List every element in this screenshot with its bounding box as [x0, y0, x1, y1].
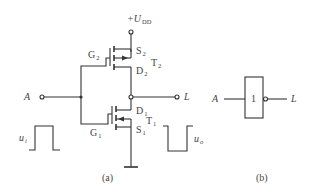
input-a-terminal [40, 95, 44, 99]
g1-wire [81, 97, 112, 124]
t2-gate-label: G2 [88, 49, 99, 61]
figure-b-caption: (b) [256, 172, 268, 184]
output-l-label: L [183, 91, 190, 102]
input-pulse-waveform [29, 126, 60, 150]
input-a-label: A [23, 91, 31, 102]
figure-a-circuit: +UDD S2 D2 T2 G2 [19, 13, 204, 184]
supply-label: +UDD [127, 13, 152, 25]
t1-body-arrow-icon [118, 117, 124, 122]
transistor-t1: D1 S1 T1 G1 [90, 99, 156, 167]
figure-a-caption: (a) [102, 172, 113, 184]
gate-input-a-label: A [211, 93, 219, 104]
gate-symbol-text: 1 [251, 93, 256, 104]
t2-drain-label: D2 [136, 65, 147, 77]
output-l-terminal [175, 95, 179, 99]
transistor-t2: S2 D2 T2 G2 [88, 45, 161, 95]
gate-output-l-label: L [290, 93, 297, 104]
output-waveform-label: uo [194, 133, 204, 145]
output-pulse-waveform [163, 126, 193, 151]
input-waveform-label: ui [19, 132, 27, 144]
supply-terminal [129, 30, 133, 34]
t1-gate-label: G1 [90, 127, 101, 139]
inversion-bubble-icon [264, 97, 268, 101]
t1-source-label: S1 [136, 124, 146, 136]
t2-name-label: T2 [151, 57, 161, 69]
figure-b-not-gate: A 1 L (b) [211, 77, 297, 184]
t2-body-arrow-icon [122, 56, 128, 61]
cmos-inverter-diagram: +UDD S2 D2 T2 G2 [0, 0, 323, 192]
t1-name-label: T1 [146, 115, 156, 127]
output-node [129, 95, 133, 99]
t2-source-label: S2 [136, 45, 146, 57]
g2-wire [81, 58, 110, 97]
